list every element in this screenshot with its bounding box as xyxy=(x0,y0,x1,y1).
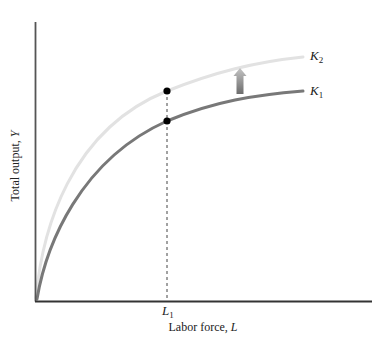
x-axis-label-text: Labor force, xyxy=(169,320,231,334)
y-axis-label: Total output, Y xyxy=(8,131,23,202)
k1-base: K xyxy=(310,83,319,98)
l1-tick-label: L1 xyxy=(162,303,174,320)
k1-curve-label: K1 xyxy=(310,83,323,100)
production-function-chart xyxy=(0,0,391,344)
x-axis-variable: L xyxy=(231,320,238,334)
k2-point-at-l1 xyxy=(163,87,170,94)
y-axis-label-text: Total output, xyxy=(8,137,22,201)
k2-curve-label: K2 xyxy=(310,48,323,65)
shift-up-arrow-icon xyxy=(234,68,247,94)
x-axis-label: Labor force, L xyxy=(169,320,238,335)
k2-subscript: 2 xyxy=(319,55,324,65)
y-axis-variable: Y xyxy=(8,131,22,138)
l1-subscript: 1 xyxy=(169,310,174,320)
k1-subscript: 1 xyxy=(319,90,324,100)
k2-base: K xyxy=(310,48,319,63)
k1-point-at-l1 xyxy=(163,117,170,124)
